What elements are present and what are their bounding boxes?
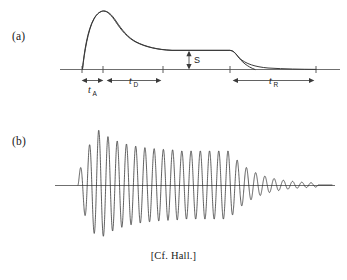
figure-root: (a) (b) S	[0, 0, 347, 280]
attack-time-subscript: A	[93, 90, 98, 97]
decay-arrowhead-right	[156, 78, 161, 83]
release-time-label: t	[269, 75, 272, 86]
attack-arrowhead-right	[98, 78, 103, 83]
panel-a-group: S t A t D t	[60, 11, 340, 97]
figure-svg: S t A t D t	[0, 0, 347, 280]
sustain-label: S	[194, 55, 200, 65]
decay-time-subscript: D	[134, 81, 139, 88]
figure-caption: [Cf. Hall.]	[0, 250, 347, 261]
attack-time-dimension: t A	[82, 78, 104, 96]
panel-b-group	[55, 130, 335, 236]
release-arrowhead-right	[309, 78, 314, 83]
sustain-arrowhead-down	[186, 64, 191, 69]
decay-arrowhead-left	[107, 78, 112, 83]
release-arrowhead-left	[233, 78, 238, 83]
attack-arrowhead-left	[82, 78, 87, 83]
attack-time-label: t	[88, 84, 91, 95]
sustain-dimension: S	[186, 51, 200, 70]
release-time-dimension: t R	[233, 75, 315, 88]
decay-time-label: t	[129, 75, 132, 86]
decay-time-dimension: t D	[107, 75, 162, 88]
sustain-arrowhead-up	[186, 51, 191, 56]
waveform-curve	[78, 130, 332, 236]
envelope-curve	[83, 11, 256, 70]
release-time-subscript: R	[274, 81, 279, 88]
